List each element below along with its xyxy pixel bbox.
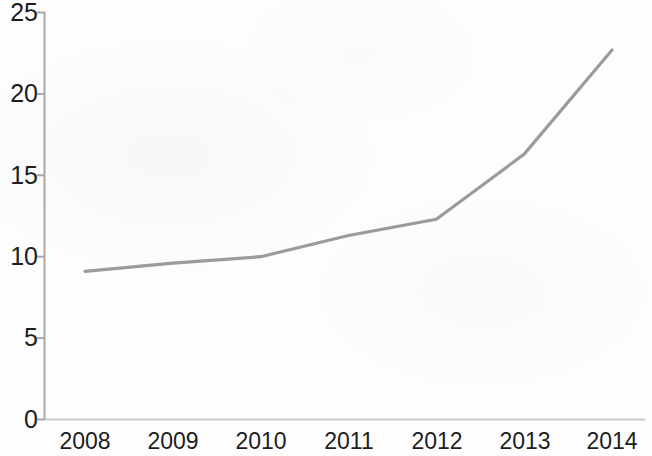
data-series-line <box>85 50 612 271</box>
plot-area <box>0 0 652 456</box>
line-chart: 25 20 15 10 5 0 2008 2009 2010 2011 2012… <box>0 0 652 456</box>
